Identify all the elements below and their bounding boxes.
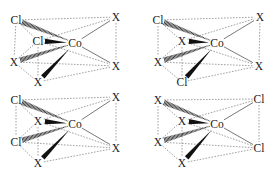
hashed-bond-stroke (36, 134, 37, 138)
hashed-bond-stroke (182, 108, 183, 111)
hashed-bond-stroke (56, 48, 57, 50)
hashed-bond-stroke (40, 52, 41, 55)
hashed-bond-stroke (198, 35, 199, 37)
hashed-bond-stroke (47, 131, 48, 134)
hashed-bond-stroke (180, 27, 181, 30)
hashed-bond-stroke (183, 133, 184, 136)
hashed-bond-stroke (178, 26, 179, 30)
hashed-bond-stroke (172, 135, 173, 139)
x-ligand-label-l: X (10, 56, 19, 68)
prism-edge (22, 97, 110, 100)
hashed-bond-stroke (193, 33, 194, 35)
hashed-bond-stroke (174, 135, 175, 139)
hashed-bond-stroke (49, 112, 50, 114)
hashed-bond-stroke (27, 136, 28, 140)
hashed-bond-stroke (199, 129, 200, 131)
hashed-bond-stroke (182, 28, 183, 31)
hashed-bond-stroke (29, 55, 30, 59)
hashed-bond-stroke (45, 111, 46, 114)
hashed-bond-stroke (41, 133, 42, 136)
x-ligand-label-tl: X (154, 94, 163, 106)
prism-edge (14, 26, 15, 56)
x-ligand-label-back: X (34, 115, 43, 127)
hashed-bond-stroke (43, 51, 44, 54)
hashed-bond-stroke (53, 114, 54, 116)
hashed-bond-stroke (51, 113, 52, 115)
hashed-bond-stroke (40, 133, 41, 136)
hashed-bond-stroke (198, 129, 199, 131)
hashed-bond-stroke (32, 135, 33, 139)
hashed-bond-stroke (26, 56, 27, 60)
hashed-bond-stroke (191, 32, 192, 34)
hashed-bond-stroke (200, 47, 201, 49)
bond-line (82, 128, 110, 144)
hashed-bond-stroke (56, 116, 57, 118)
hashed-bond-stroke (187, 132, 188, 135)
hashed-bond-stroke (45, 132, 46, 135)
x-ligand-label-tr: X (112, 91, 121, 103)
hashed-bond-stroke (191, 112, 192, 114)
hashed-bond-stroke (196, 34, 197, 36)
hashed-bond-stroke (190, 112, 191, 115)
x-ligand-label-b: X (178, 157, 187, 169)
hashed-bond-stroke (56, 129, 57, 131)
prism-edge (44, 149, 110, 162)
bond-line (82, 101, 110, 120)
hashed-bond-stroke (175, 54, 176, 58)
bond-line (224, 103, 253, 120)
hashed-bond-stroke (195, 33, 196, 35)
hashed-bond-stroke (49, 131, 50, 133)
hashed-bond-stroke (193, 113, 194, 115)
prism-edge (19, 66, 34, 78)
hashed-bond-stroke (201, 36, 202, 38)
bond-line (224, 128, 253, 145)
hashed-bond-stroke (187, 30, 188, 33)
hashed-bond-stroke (38, 27, 39, 30)
hashed-bond-stroke (49, 50, 50, 52)
hashed-bond-stroke (188, 51, 189, 54)
hashed-bond-stroke (195, 114, 196, 116)
prism-edge (163, 146, 178, 159)
hashed-bond-stroke (174, 55, 175, 59)
hashed-bond-stroke (186, 110, 187, 113)
hashed-bond-stroke (41, 109, 42, 112)
hashed-bond-stroke (39, 133, 40, 136)
prism-edge (163, 66, 178, 78)
prism-edge (44, 67, 110, 81)
hashed-bond-stroke (59, 117, 60, 119)
hashed-bond-stroke (190, 31, 191, 34)
chlorine-label-tl: Cl (153, 14, 164, 26)
prism-edge (164, 99, 253, 100)
x-ligand-label-l: X (154, 56, 163, 68)
x-ligand-label-b: X (34, 157, 43, 169)
isomer-diagram: CoClClXXXXCoClXXClXXCoClXClXXXCoXXXXClCl (0, 0, 276, 178)
x-ligand-label-tr: X (112, 11, 121, 23)
hashed-bond-stroke (185, 110, 186, 113)
hashed-bond-stroke (31, 135, 32, 139)
hashed-bond-stroke (36, 26, 37, 30)
hashed-bond-stroke (199, 48, 200, 50)
panel-4: CoXXXXClCl (154, 93, 265, 169)
hashed-bond-stroke (190, 50, 191, 53)
hashed-bond-stroke (40, 28, 41, 31)
hashed-bond-stroke (179, 53, 180, 57)
hashed-bond-stroke (183, 29, 184, 32)
hashed-bond-stroke (194, 130, 195, 132)
diagram-svg: CoClClXXXXCoClXXClXXCoClXClXXXCoXXXXClCl (0, 0, 276, 178)
hashed-bond-stroke (177, 134, 178, 138)
prism-edge (20, 62, 110, 66)
hashed-bond-stroke (173, 55, 174, 59)
hashed-bond-stroke (53, 33, 54, 35)
hashed-bond-stroke (198, 116, 199, 118)
hashed-bond-stroke (55, 34, 56, 36)
hashed-bond-stroke (54, 34, 55, 36)
cobalt-atom-label: Co (210, 118, 224, 130)
hashed-bond-stroke (52, 130, 53, 132)
hashed-bond-stroke (30, 55, 31, 59)
chlorine-label-l: Cl (11, 136, 22, 148)
hashed-bond-stroke (40, 108, 41, 111)
hashed-bond-stroke (201, 117, 202, 119)
hashed-bond-stroke (185, 29, 186, 32)
hashed-bond-stroke (44, 51, 45, 54)
hashed-bond-stroke (54, 48, 55, 50)
